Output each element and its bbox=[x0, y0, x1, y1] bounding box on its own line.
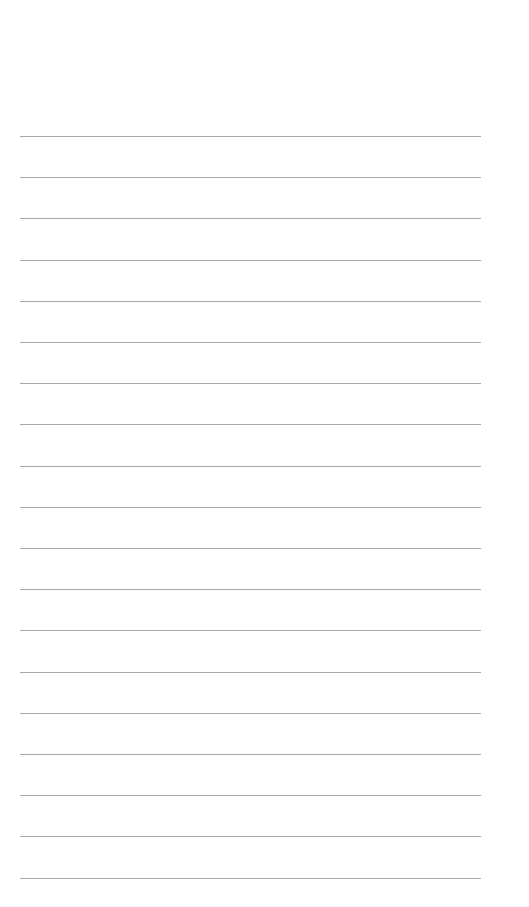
ruled-line bbox=[20, 136, 481, 137]
ruled-line bbox=[20, 218, 481, 219]
ruled-line bbox=[20, 424, 481, 425]
ruled-line bbox=[20, 466, 481, 467]
ruled-line bbox=[20, 878, 481, 879]
ruled-line bbox=[20, 177, 481, 178]
ruled-line bbox=[20, 342, 481, 343]
ruled-line bbox=[20, 301, 481, 302]
ruled-line bbox=[20, 260, 481, 261]
ruled-line bbox=[20, 507, 481, 508]
ruled-line bbox=[20, 548, 481, 549]
ruled-line bbox=[20, 589, 481, 590]
ruled-line bbox=[20, 795, 481, 796]
ruled-line bbox=[20, 383, 481, 384]
lined-paper-page bbox=[0, 0, 529, 907]
ruled-line bbox=[20, 672, 481, 673]
ruled-line bbox=[20, 836, 481, 837]
ruled-line bbox=[20, 713, 481, 714]
ruled-line bbox=[20, 630, 481, 631]
ruled-line bbox=[20, 754, 481, 755]
